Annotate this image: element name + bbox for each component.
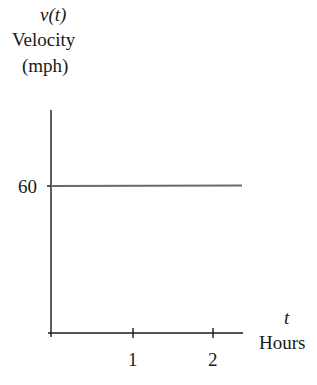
- x-axis-variable: t: [284, 308, 289, 327]
- y-axis-unit: (mph): [22, 56, 68, 75]
- x-tick-label-1: 1: [128, 350, 138, 369]
- y-axis-label: Velocity: [12, 30, 75, 49]
- velocity-line: [51, 186, 242, 187]
- x-axis-label: Hours: [259, 333, 305, 352]
- y-axis-variable: v(t): [40, 5, 66, 24]
- y-tick-label-60: 60: [18, 177, 37, 196]
- x-tick-label-2: 2: [208, 350, 218, 369]
